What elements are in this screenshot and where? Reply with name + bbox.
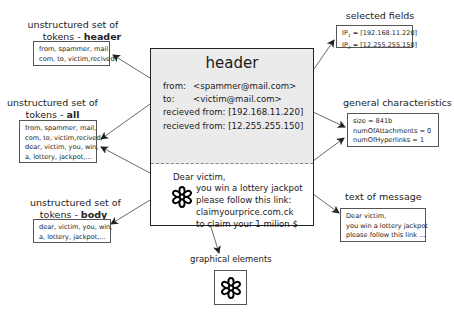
body-line: please follow this link:: [196, 195, 291, 205]
all-tokens-box: from, spammer, mail, com, to, victim,rec…: [19, 120, 97, 163]
header-tokens-box: from, spammer, mail, com, to, victim,rec…: [33, 41, 110, 66]
field-value: = [192.168.11.220]: [351, 29, 417, 37]
email-header-section: header from:<spammer@mail.com> to:<victi…: [151, 49, 313, 164]
caption-line: unstructured set of: [30, 197, 117, 209]
selected-field-ip2: IP2 = [12.255.255.150]: [342, 41, 407, 53]
header-tokens-caption: unstructured set of tokens - header: [2, 19, 144, 43]
field-value: = [12.255.255.150]: [351, 41, 417, 49]
general-characteristics-caption: general characteristics: [343, 97, 447, 109]
header-label: recieved from:: [163, 107, 226, 117]
caption-line: unstructured set of: [2, 19, 144, 31]
token-line: from, spammer, mail,: [25, 124, 91, 134]
token-line: a, lottery, jackpot,...: [39, 233, 105, 243]
header-label: from:: [163, 81, 193, 91]
text-of-message-caption: text of message: [345, 191, 415, 203]
graphical-elements-caption: graphical elements: [190, 253, 260, 265]
characteristic-line: numOfAttachments = 0: [353, 127, 433, 137]
header-line-to: to:<victim@mail.com>: [163, 94, 282, 104]
arrow-body-to-general: [313, 138, 344, 161]
arrow-header-to-all-tokens: [101, 104, 150, 139]
header-value: <spammer@mail.com>: [193, 81, 296, 91]
body-line: claimyourprice.com.ck: [196, 207, 293, 217]
header-line-received-1: recieved from: [192.168.11.220]: [163, 107, 303, 117]
graphical-elements-box: [214, 270, 247, 305]
email-message: header from:<spammer@mail.com> to:<victi…: [150, 48, 314, 226]
header-label: recieved from:: [163, 121, 226, 131]
token-line: a, lottery, jackpot,...: [25, 153, 91, 163]
text-of-message-box: Dear victim, you win a lottery jackpot p…: [340, 208, 426, 242]
caption-bold: all: [67, 109, 80, 120]
body-line: to claim your 1 milion $: [196, 219, 298, 229]
token-line: from, spammer, mail,: [39, 45, 104, 55]
characteristic-line: size = 841b: [353, 117, 433, 127]
arrow-to-header-tokens: [113, 55, 150, 78]
arrow-body-to-all-tokens: [101, 147, 150, 173]
header-line-from: from:<spammer@mail.com>: [163, 81, 296, 91]
general-characteristics-box: size = 841b numOfAttachments = 0 numOfHy…: [347, 113, 439, 147]
selected-fields-caption: selected fields: [335, 10, 425, 22]
selected-fields-box: IP1 = [192.168.11.220] IP2 = [12.255.255…: [336, 25, 413, 48]
flower-icon: [220, 277, 242, 299]
characteristic-line: numOfHyperlinks = 1: [353, 136, 433, 146]
caption-prefix: tokens -: [26, 109, 67, 120]
token-line: dear, victim, you, win,: [39, 223, 105, 233]
body-line: Dear victim,: [173, 172, 226, 182]
token-line: dear, victim, you, win,: [25, 143, 91, 153]
header-value: [192.168.11.220]: [228, 107, 303, 117]
message-line: you win a lottery jackpot: [346, 222, 420, 232]
all-tokens-caption: unstructured set of tokens - all: [0, 97, 105, 121]
message-line: please follow this link ...: [346, 231, 420, 241]
token-line: com, to, victim,recived,: [25, 134, 91, 144]
selected-field-ip1: IP1 = [192.168.11.220]: [342, 29, 407, 41]
header-title: header: [151, 54, 313, 72]
body-line: you win a lottery jackpot: [196, 183, 303, 193]
token-line: com, to, victim,recived: [39, 55, 104, 65]
header-line-received-2: recieved from: [12.255.255.150]: [163, 121, 303, 131]
header-value: <victim@mail.com>: [193, 94, 282, 104]
body-tokens-caption: unstructured set of tokens - body: [30, 197, 117, 221]
header-label: to:: [163, 94, 193, 104]
flower-icon: [171, 186, 193, 208]
header-value: [12.255.255.150]: [228, 121, 303, 131]
arrow-header-to-general: [313, 112, 345, 127]
body-tokens-box: dear, victim, you, win, a, lottery, jack…: [33, 219, 111, 243]
message-line: Dear victim,: [346, 212, 420, 222]
caption-line: unstructured set of: [0, 97, 105, 109]
